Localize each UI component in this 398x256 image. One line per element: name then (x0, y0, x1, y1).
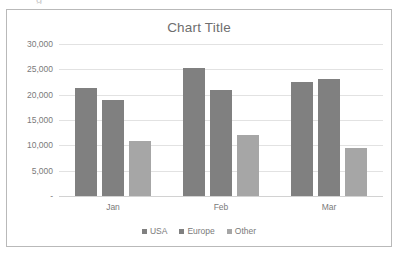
plot-wrapper: 30,00025,00020,00015,00010,0005,000- Jan… (7, 44, 393, 216)
x-axis-tick-label: Jan (59, 196, 167, 216)
bar-usa-feb[interactable] (183, 68, 205, 196)
chart-title: Chart Title (7, 20, 391, 35)
legend-item-europe[interactable]: Europe (179, 226, 214, 236)
bar-europe-jan[interactable] (102, 100, 124, 196)
bar-group (59, 44, 167, 196)
y-axis-tick-label: 10,000 (27, 140, 53, 150)
bar-other-jan[interactable] (129, 141, 151, 196)
chart-legend[interactable]: USAEuropeOther (7, 226, 391, 236)
legend-swatch-icon (142, 229, 147, 234)
plot-area (59, 44, 383, 196)
top-edge-artifact: g (36, 0, 48, 4)
bar-group (275, 44, 383, 196)
y-axis-tick-label: 30,000 (27, 39, 53, 49)
legend-label: USA (150, 226, 167, 236)
legend-label: Europe (187, 226, 214, 236)
bar-other-mar[interactable] (345, 148, 367, 196)
y-axis-tick-label: 15,000 (27, 115, 53, 125)
bar-usa-mar[interactable] (291, 82, 313, 196)
y-axis-tick-label: 5,000 (32, 166, 53, 176)
y-axis-tick-label: - (50, 191, 53, 201)
legend-item-other[interactable]: Other (227, 226, 256, 236)
y-axis-tick-label: 25,000 (27, 64, 53, 74)
legend-swatch-icon (227, 229, 232, 234)
bar-group (167, 44, 275, 196)
bar-europe-feb[interactable] (210, 90, 232, 196)
y-axis-tick-label: 20,000 (27, 90, 53, 100)
x-axis-tick-label: Feb (167, 196, 275, 216)
bar-other-feb[interactable] (237, 135, 259, 196)
legend-label: Other (235, 226, 256, 236)
chart-container[interactable]: Chart Title 30,00025,00020,00015,00010,0… (6, 9, 392, 247)
x-axis-tick-label: Mar (275, 196, 383, 216)
bars-layer (59, 44, 383, 196)
legend-item-usa[interactable]: USA (142, 226, 167, 236)
y-axis: 30,00025,00020,00015,00010,0005,000- (7, 44, 59, 196)
bar-europe-mar[interactable] (318, 79, 340, 196)
x-axis: JanFebMar (59, 196, 383, 216)
legend-swatch-icon (179, 229, 184, 234)
bar-usa-jan[interactable] (75, 88, 97, 196)
